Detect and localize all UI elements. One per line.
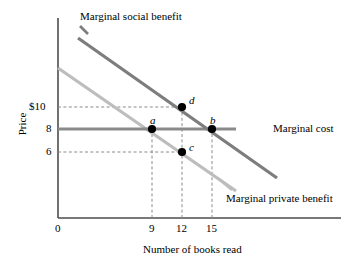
point-a [148,125,156,133]
msb-label: Marginal social benefit [80,10,182,22]
y-tick-10: $10 [29,100,46,112]
x-tick-9: 9 [149,222,155,234]
point-c [178,148,186,156]
x-tick-15: 15 [206,222,217,234]
point-label-a: a [150,114,156,126]
dashed-guides [58,107,212,218]
x-tick-0: 0 [55,222,61,234]
point-label-b: b [210,114,216,126]
economics-externality-chart: Price Number of books read $10 8 6 0 9 1… [0,0,353,266]
y-axis-title: Price [16,94,28,154]
mpb-leader-line [219,179,232,190]
marginal-social-benefit-line [78,38,277,178]
msb-leader-line [80,26,88,34]
point-d [178,103,186,111]
point-b [208,125,216,133]
mc-label: Marginal cost [273,122,334,134]
y-tick-8: 8 [46,122,52,134]
y-tick-6: 6 [46,145,52,157]
mpb-label: Marginal private benefit [226,192,333,204]
point-label-d: d [189,94,195,106]
x-tick-12: 12 [176,222,187,234]
point-label-c: c [189,141,194,153]
x-axis-title: Number of books read [143,243,242,255]
